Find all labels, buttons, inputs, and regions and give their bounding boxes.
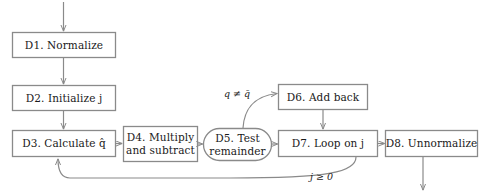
edge-d5-to-d6 (243, 94, 277, 129)
node-d4[interactable] (124, 127, 198, 162)
node-d5[interactable] (204, 129, 272, 161)
node-d1[interactable] (13, 33, 116, 58)
node-d6[interactable] (279, 85, 368, 110)
node-d3[interactable] (13, 131, 116, 157)
node-d2[interactable] (13, 86, 116, 111)
node-d8[interactable] (386, 131, 478, 157)
edge-d7-to-d3 (58, 157, 356, 178)
flowchart-canvas: D1. Normalize D2. Initialize j D3. Calcu… (0, 0, 487, 194)
node-d7[interactable] (279, 131, 378, 157)
flowchart-graphics (0, 0, 487, 194)
